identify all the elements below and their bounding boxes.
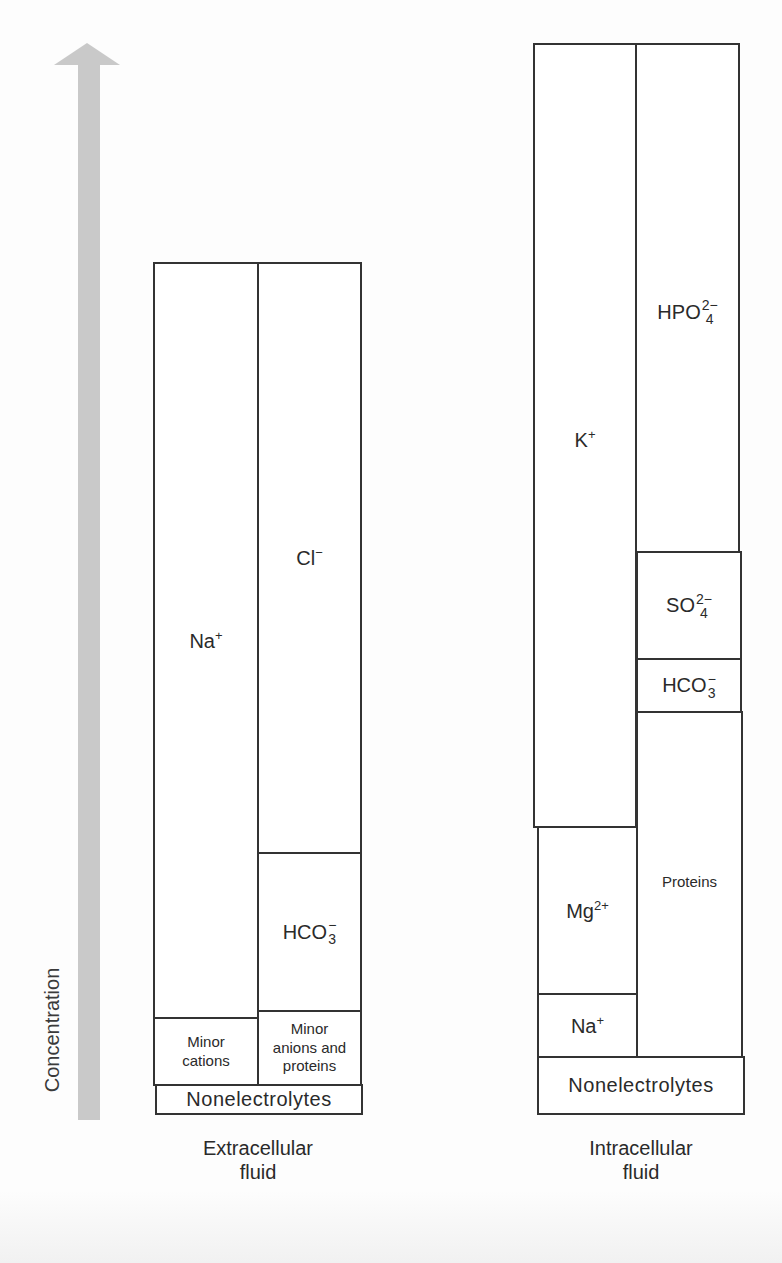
ic-hpo4-label: HPO2−4	[657, 298, 717, 326]
ec-hco3-label: HCO−3	[283, 918, 337, 946]
ec-minor-anions-box: Minoranions andproteins	[257, 1010, 362, 1086]
up-arrow-icon	[54, 43, 120, 65]
ec-cl-label: Cl−	[296, 546, 322, 570]
ec-cl-box: Cl−	[257, 262, 362, 854]
ec-hco3-box: HCO−3	[257, 852, 362, 1012]
ec-minor-cations-label: Minorcations	[182, 1033, 230, 1071]
ic-so4-label: SO2−4	[666, 592, 712, 620]
ec-minor-anions-label: Minoranions andproteins	[273, 1020, 346, 1076]
ic-so4-box: SO2−4	[636, 551, 742, 660]
ic-mg-label: Mg2+	[566, 899, 609, 923]
ic-proteins-box: Proteins	[636, 711, 743, 1058]
ec-na-box: Na+	[153, 262, 259, 1019]
ec-nonelectrolytes-label: Nonelectrolytes	[186, 1088, 331, 1111]
ec-na-label: Na+	[189, 629, 222, 653]
arrow-shaft	[78, 63, 100, 1120]
ic-hco3-label: HCO−3	[662, 672, 716, 700]
ic-k-box: K+	[533, 43, 637, 828]
ec-nonelectrolytes-box: Nonelectrolytes	[155, 1084, 363, 1115]
page-bottom-shading	[0, 1190, 782, 1263]
ic-hco3-box: HCO−3	[636, 658, 742, 713]
ic-nonelectrolytes-box: Nonelectrolytes	[537, 1056, 745, 1115]
ic-k-label: K+	[575, 428, 596, 452]
ic-na-label: Na+	[571, 1014, 604, 1038]
ic-proteins-label: Proteins	[662, 873, 717, 892]
ic-nonelectrolytes-label: Nonelectrolytes	[568, 1074, 713, 1097]
ec-minor-cations-box: Minorcations	[153, 1017, 259, 1086]
ic-hpo4-box: HPO2−4	[635, 43, 740, 553]
ic-na-box: Na+	[537, 993, 638, 1058]
ic-mg-box: Mg2+	[537, 826, 638, 995]
axis-label: Concentration	[41, 968, 64, 1093]
ic-caption: Intracellularfluid	[537, 1136, 745, 1184]
ec-caption: Extracellularfluid	[153, 1136, 363, 1184]
